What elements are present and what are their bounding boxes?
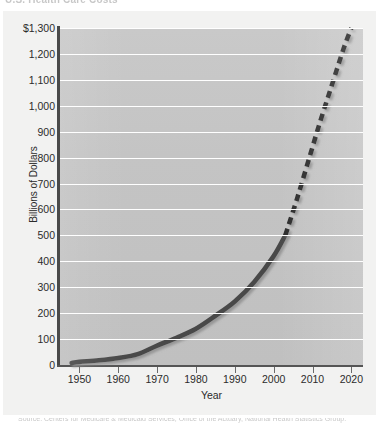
chart-title-text: U.S. Health Care Costs	[5, 0, 118, 5]
x-axis-tick-label: 2020	[340, 373, 363, 385]
y-axis-tick-label: 900	[37, 127, 55, 137]
x-axis-tick-label: 1950	[68, 373, 91, 385]
cropped-title-strip: U.S. Health Care Costs	[0, 0, 379, 11]
x-axis-title: Year	[60, 389, 363, 401]
y-axis-tick-label: 500	[37, 230, 55, 240]
gridline	[60, 184, 363, 185]
gridline	[60, 132, 363, 133]
x-axis-tick-label: 2000	[262, 373, 285, 385]
gridline	[60, 287, 363, 288]
y-axis-tick-label: 1,200	[29, 49, 55, 59]
y-axis-title: Billions of Dollars	[28, 125, 39, 245]
gridline	[60, 313, 363, 314]
gridline	[60, 158, 363, 159]
x-axis-tick-label: 1960	[107, 373, 130, 385]
y-axis-tick-label: 400	[37, 256, 55, 266]
y-axis-tick-label: $1,300	[23, 23, 55, 33]
x-axis-tick-label: 2010	[301, 373, 324, 385]
y-axis-tick-label: 300	[37, 282, 55, 292]
gridline	[60, 106, 363, 107]
gridline	[60, 28, 363, 29]
gridline	[60, 54, 363, 55]
y-axis-tick-label: 0	[49, 360, 55, 370]
series-line-actual	[72, 235, 286, 363]
gridline	[60, 339, 363, 340]
cropped-source-strip: Source: Centers for Medicare & Medicaid …	[0, 418, 379, 431]
x-axis-tick-label: 1990	[223, 373, 246, 385]
y-axis-tick-label: 1,000	[29, 101, 55, 111]
plot-area	[60, 28, 363, 365]
y-axis-tick-label: 1,100	[29, 75, 55, 85]
x-axis-line	[57, 365, 363, 367]
figure-panel: 01002003004005006007008009001,0001,1001,…	[3, 11, 376, 415]
data-series-group	[60, 28, 363, 365]
source-note-text: Source: Centers for Medicare & Medicaid …	[18, 418, 346, 422]
y-axis-tick-label: 200	[37, 308, 55, 318]
y-axis-tick-label: 800	[37, 153, 55, 163]
gridline	[60, 235, 363, 236]
y-axis-tick-label: 600	[37, 204, 55, 214]
gridline	[60, 80, 363, 81]
y-axis-tick-label: 700	[37, 179, 55, 189]
gridline	[60, 261, 363, 262]
x-axis-tick-label: 1970	[145, 373, 168, 385]
x-axis-tick-label: 1980	[184, 373, 207, 385]
gridline	[60, 209, 363, 210]
y-axis-tick-label: 100	[37, 334, 55, 344]
